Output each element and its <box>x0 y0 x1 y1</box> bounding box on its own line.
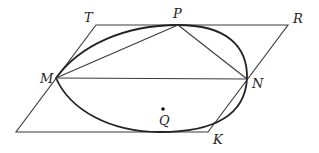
label-P: P <box>172 6 182 21</box>
label-R: R <box>292 11 303 26</box>
label-M: M <box>39 71 54 86</box>
label-K: K <box>212 132 224 147</box>
label-T: T <box>84 10 94 25</box>
segment-PN <box>178 25 247 79</box>
label-N: N <box>251 76 264 91</box>
segment-MP <box>56 25 178 78</box>
geometry-diagram: T P R M N Q K <box>0 0 319 153</box>
segment-MN <box>56 78 247 79</box>
label-Q: Q <box>159 113 170 128</box>
point-Q <box>161 107 165 111</box>
